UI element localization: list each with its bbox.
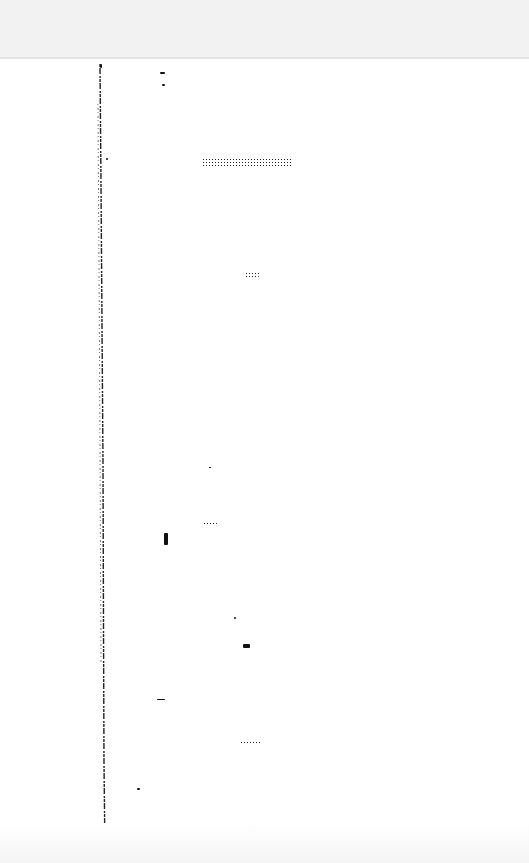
scan-page-edge	[0, 57, 529, 59]
noise-speck	[234, 617, 236, 619]
noise-speck	[106, 158, 108, 160]
noise-speck	[203, 522, 218, 526]
noise-speck	[164, 533, 168, 545]
noise-speck	[240, 741, 262, 743]
noise-speck	[243, 644, 250, 648]
noise-speck	[202, 158, 292, 168]
binding-edge-line	[97, 64, 107, 854]
scan-top-margin	[0, 0, 529, 58]
noise-speck	[157, 699, 165, 700]
noise-speck	[162, 84, 165, 86]
noise-speck	[209, 467, 211, 468]
noise-speck	[245, 272, 259, 277]
noise-speck	[100, 64, 102, 68]
noise-speck	[160, 72, 165, 74]
scan-bottom-margin	[0, 823, 529, 863]
noise-speck	[137, 788, 140, 790]
